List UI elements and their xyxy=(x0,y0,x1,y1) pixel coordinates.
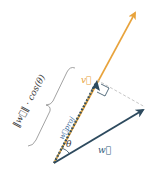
label-w: w⃗ xyxy=(98,145,111,155)
projection-diagram: v⃗ w⃗ θ w⃗proj ‖w⃗‖ · cos(θ) xyxy=(0,0,155,175)
label-theta: θ xyxy=(66,139,72,149)
label-brace-formula: ‖w⃗‖ · cos(θ) xyxy=(11,72,48,129)
label-v: v⃗ xyxy=(81,75,92,85)
perpendicular-dashed-line xyxy=(97,80,145,107)
